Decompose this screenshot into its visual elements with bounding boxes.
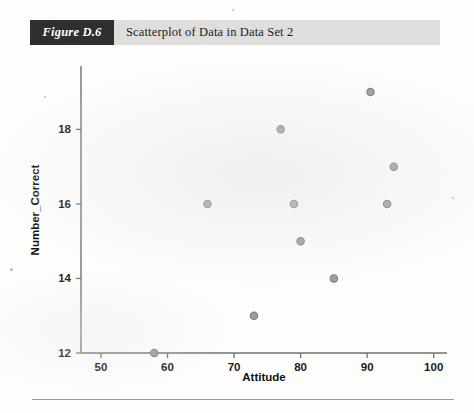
scatterplot: 12141618 5060708090100 Attitude Number_C…	[0, 0, 474, 413]
data-point	[151, 349, 158, 356]
y-axis-ticks	[76, 129, 81, 353]
x-tick-label-70: 70	[228, 361, 241, 373]
x-tick-label-50: 50	[95, 361, 108, 373]
y-axis-title: Number_Correct	[29, 164, 41, 255]
data-point	[277, 126, 284, 133]
x-tick-label-80: 80	[294, 361, 307, 373]
y-tick-label-12: 12	[58, 347, 71, 359]
data-point	[297, 237, 304, 244]
y-tick-label-16: 16	[58, 198, 71, 210]
data-point-group	[151, 88, 398, 356]
data-point	[250, 312, 257, 319]
x-tick-label-90: 90	[361, 361, 374, 373]
data-point	[204, 200, 211, 207]
data-point	[383, 200, 390, 207]
x-tick-label-60: 60	[161, 361, 174, 373]
data-point	[367, 88, 374, 95]
scatterplot-svg: 12141618 5060708090100 Attitude Number_C…	[0, 0, 474, 413]
x-axis-title: Attitude	[242, 371, 285, 383]
y-axis-tick-labels: 12141618	[58, 123, 71, 359]
axis-lines	[81, 66, 447, 353]
data-point	[330, 275, 337, 282]
y-tick-label-18: 18	[58, 123, 71, 135]
page-divider-rule	[32, 399, 454, 400]
y-tick-label-14: 14	[58, 272, 71, 284]
data-point	[290, 200, 297, 207]
x-tick-label-100: 100	[424, 361, 443, 373]
data-point	[390, 163, 397, 170]
